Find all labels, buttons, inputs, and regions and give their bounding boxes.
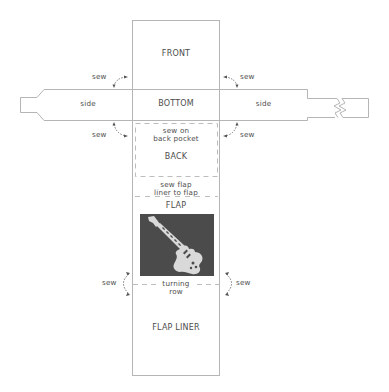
arrowhead-icon bbox=[124, 76, 128, 79]
arrowhead-icon bbox=[236, 122, 239, 126]
panel-bottom-label: BOTTOM bbox=[132, 100, 220, 109]
right-tab-outline bbox=[342, 99, 369, 118]
panel-flap-liner-label: FLAP LINER bbox=[132, 324, 220, 333]
sew-label-top-left: sew bbox=[92, 73, 112, 82]
arrowhead-icon bbox=[113, 85, 116, 89]
arrowhead-icon bbox=[223, 135, 227, 138]
panel-front-label: FRONT bbox=[132, 50, 220, 59]
sew-label-mid-right: sew bbox=[240, 131, 260, 140]
arrowhead-icon bbox=[236, 85, 239, 89]
sew-arrow-low-left bbox=[124, 274, 130, 294]
right-side-outline bbox=[220, 90, 337, 99]
arrowhead-icon bbox=[126, 293, 130, 297]
panel-flap-label: FLAP bbox=[132, 202, 220, 211]
arrowhead-icon bbox=[225, 272, 229, 276]
arrowhead-icon bbox=[113, 122, 116, 126]
back-pocket-note-line2: back pocket bbox=[132, 135, 220, 144]
arrowhead-icon bbox=[124, 135, 128, 138]
arrowhead-icon bbox=[223, 76, 227, 79]
turning-row-line2: row bbox=[132, 288, 220, 297]
flap-image bbox=[140, 214, 214, 276]
electric-guitar-icon bbox=[140, 214, 214, 276]
arrowhead-icon bbox=[225, 293, 229, 297]
sew-label-low-right: sew bbox=[236, 279, 256, 288]
sew-label-top-right: sew bbox=[240, 73, 260, 82]
sew-label-low-left: sew bbox=[102, 279, 122, 288]
panel-back-label: BACK bbox=[132, 153, 220, 162]
sew-arrow-mid-left bbox=[114, 124, 126, 136]
panel-side-left-label: side bbox=[44, 100, 132, 109]
sew-arrow-mid-right bbox=[225, 124, 237, 136]
zigzag-break-left bbox=[334, 99, 341, 118]
sew-arrow-low-right bbox=[226, 274, 232, 294]
panel-side-right-label: side bbox=[220, 100, 307, 109]
right-side-outline-bottom bbox=[220, 118, 335, 121]
sew-label-mid-left: sew bbox=[92, 131, 112, 140]
zigzag-break-right bbox=[339, 99, 346, 118]
arrowhead-icon bbox=[126, 272, 130, 276]
flap-note-line2: liner to flap bbox=[132, 189, 220, 198]
